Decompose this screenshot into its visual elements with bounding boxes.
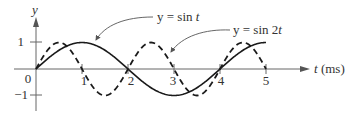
xtick-3-label: 3 [170, 73, 177, 88]
origin-label: 0 [25, 71, 32, 86]
xtick-5-label: 5 [263, 73, 270, 88]
annot-sin-2t: y = sin 2t [233, 22, 282, 37]
annot-sin-2t-leader [171, 30, 230, 52]
y-axis-arrow-icon [33, 17, 39, 27]
annot-sin-t: y = sin t [157, 9, 200, 24]
x-axis-arrow-icon [300, 66, 310, 72]
x-axis-label: t (ms) [314, 61, 345, 76]
annot-sin-t-leader [96, 17, 153, 40]
xtick-1-label: 1 [81, 73, 88, 88]
y-axis-label: y [30, 2, 38, 17]
sine-chart: y t (ms) 1 −1 0 1 2 3 4 5 y = sin t y = … [0, 0, 356, 118]
xtick-4-label: 4 [218, 73, 225, 88]
xtick-2-label: 2 [128, 73, 135, 88]
ytick-m1-label: −1 [14, 87, 28, 102]
ytick-1-label: 1 [18, 34, 25, 49]
